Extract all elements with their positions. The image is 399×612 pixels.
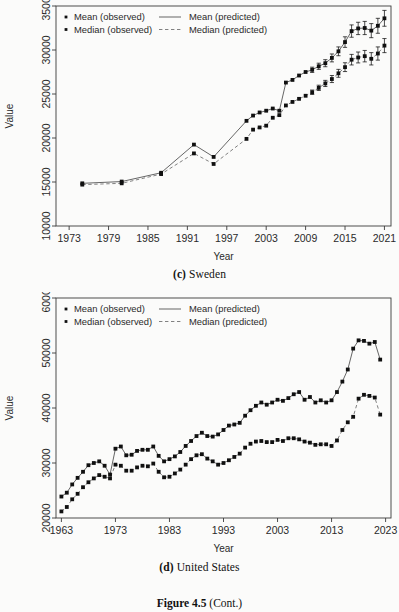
median-predicted-line	[82, 46, 384, 185]
y-tick-label: 60000	[40, 292, 52, 313]
median-observed-point	[383, 44, 387, 48]
mean-observed-point	[340, 380, 344, 384]
mean-observed-point	[313, 401, 317, 405]
mean-observed-point	[317, 64, 321, 68]
median-observed-point	[70, 497, 74, 501]
median-observed-point	[373, 396, 377, 400]
median-observed-point	[87, 480, 91, 484]
legend-median-predicted-label: Median (predicted)	[189, 316, 267, 327]
median-observed-point	[146, 464, 150, 468]
x-tick-label: 2003	[255, 232, 279, 244]
median-observed-point	[159, 172, 163, 176]
median-observed-point	[357, 397, 361, 401]
median-observed-point	[178, 468, 182, 472]
median-observed-point	[97, 473, 101, 477]
chart-panel-sweden: 1000015000200002500030000350001973197919…	[0, 0, 399, 300]
x-tick-label: 2023	[374, 524, 398, 536]
mean-observed-point	[119, 445, 123, 449]
panel-caption-sweden: (c) Sweden	[0, 268, 399, 280]
x-tick-label: 2015	[333, 232, 357, 244]
median-observed-point	[254, 440, 258, 444]
median-observed-point	[200, 452, 204, 456]
mean-observed-point	[363, 26, 367, 30]
legend-median-observed-marker	[65, 28, 68, 31]
chart-legend: Mean (observed)Median (observed)Mean (pr…	[65, 303, 268, 327]
mean-observed-point	[141, 448, 145, 452]
mean-observed-point	[310, 68, 314, 72]
figure-caption-rest: (Cont.)	[209, 597, 242, 609]
mean-observed-point	[92, 461, 96, 465]
median-observed-point	[378, 413, 382, 417]
mean-observed-point	[162, 459, 166, 463]
mean-observed-point	[70, 483, 74, 487]
figure-number: Figure 4.5	[157, 597, 207, 609]
x-tick-label: 1991	[176, 232, 200, 244]
x-axis-title: Year	[213, 543, 234, 554]
legend-mean-observed-label: Mean (observed)	[74, 11, 145, 22]
mean-observed-point	[297, 74, 301, 78]
panel-title-c: Sweden	[189, 268, 226, 280]
mean-observed-point	[303, 398, 307, 402]
mean-observed-point	[114, 447, 118, 451]
median-observed-point	[351, 415, 355, 419]
mean-predicted-line	[82, 18, 384, 183]
figure-caption: Figure 4.5 (Cont.)	[0, 597, 399, 609]
median-observed-point	[308, 441, 312, 445]
legend-median-observed-label: Median (observed)	[74, 24, 152, 35]
mean-observed-point	[286, 396, 290, 400]
median-observed-point	[232, 455, 236, 459]
median-observed-point	[80, 183, 84, 187]
x-tick-label: 2021	[373, 232, 397, 244]
mean-observed-point	[383, 16, 387, 20]
mean-observed-point	[323, 61, 327, 65]
median-observed-point	[292, 436, 296, 440]
figure-page: 1000015000200002500030000350001973197919…	[0, 0, 399, 612]
median-observed-point	[276, 438, 280, 442]
y-axis-title: Value	[4, 103, 15, 128]
median-observed-point	[141, 464, 145, 468]
x-axis-title: Year	[213, 251, 234, 262]
legend-median-predicted-label: Median (predicted)	[189, 24, 267, 35]
mean-observed-point	[249, 408, 253, 412]
mean-observed-point	[319, 398, 323, 402]
median-observed-point	[192, 152, 196, 156]
legend-mean-observed-marker	[65, 308, 68, 311]
mean-observed-point	[238, 421, 242, 425]
median-observed-point	[135, 466, 139, 470]
mean-observed-point	[362, 339, 366, 343]
median-observed-point	[114, 463, 118, 467]
median-observed-point	[65, 505, 69, 509]
median-observed-point	[108, 477, 112, 481]
legend-mean-predicted-label: Mean (predicted)	[189, 303, 260, 314]
median-observed-point	[277, 113, 281, 117]
mean-observed-point	[254, 404, 258, 408]
median-observed-point	[238, 452, 242, 456]
mean-observed-point	[195, 434, 199, 438]
y-tick-label: 30000	[40, 35, 52, 64]
mean-observed-point	[308, 395, 312, 399]
mean-observed-point	[343, 40, 347, 44]
median-observed-point	[286, 436, 290, 440]
x-tick-label: 1985	[136, 232, 160, 244]
median-observed-point	[251, 128, 255, 132]
chart-legend: Mean (observed)Median (observed)Mean (pr…	[65, 11, 268, 35]
median-observed-point	[319, 442, 323, 446]
mean-observed-point	[264, 109, 268, 113]
mean-observed-point	[335, 390, 339, 394]
mean-observed-point	[351, 347, 355, 351]
mean-observed-point	[151, 445, 155, 449]
mean-observed-point	[135, 449, 139, 453]
median-observed-point	[205, 457, 209, 461]
median-observed-point	[330, 77, 334, 81]
mean-observed-point	[189, 439, 193, 443]
mean-observed-point	[245, 119, 249, 123]
mean-observed-point	[324, 401, 328, 405]
y-tick-label: 30000	[40, 448, 52, 477]
median-observed-point	[120, 181, 124, 185]
mean-observed-point	[168, 457, 172, 461]
mean-observed-point	[284, 81, 288, 85]
plot-frame	[56, 6, 391, 226]
mean-observed-point	[346, 368, 350, 372]
mean-observed-point	[270, 401, 274, 405]
mean-observed-point	[357, 338, 361, 342]
